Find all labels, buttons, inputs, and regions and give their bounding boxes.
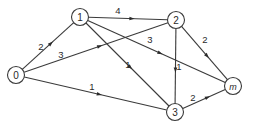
edge-weight-label: 2 bbox=[202, 34, 207, 45]
edge-line bbox=[88, 17, 167, 19]
arrow-icon bbox=[129, 17, 134, 21]
arrow-icon bbox=[97, 45, 103, 48]
arrow-icon bbox=[205, 96, 210, 100]
node-0: 0 bbox=[8, 67, 25, 84]
edge-weight-label: 2 bbox=[38, 41, 43, 52]
node-label: 2 bbox=[173, 15, 179, 26]
node-label: 3 bbox=[172, 107, 178, 118]
edge-line bbox=[183, 89, 225, 108]
edge-line bbox=[88, 20, 226, 82]
edge-weight-label: 2 bbox=[190, 92, 195, 103]
edge-2-to-3: 1 bbox=[174, 28, 182, 103]
edge-weight-label: 3 bbox=[58, 49, 63, 60]
node-label: m bbox=[229, 82, 237, 92]
edge-1-to-2: 4 bbox=[88, 5, 167, 21]
arrow-icon bbox=[157, 50, 162, 54]
edge-1-to-m: 3 bbox=[88, 20, 226, 82]
edge-0-to-1: 2 bbox=[22, 23, 73, 70]
node-2: 2 bbox=[168, 12, 185, 29]
node-1: 1 bbox=[72, 9, 89, 26]
node-label: 0 bbox=[13, 70, 19, 81]
edge-weight-label: 1 bbox=[125, 59, 130, 70]
node-label: 1 bbox=[77, 12, 83, 23]
edge-3-to-m: 2 bbox=[183, 89, 225, 108]
network-diagram: 231413122 0123m bbox=[0, 0, 254, 127]
edges-layer: 231413122 bbox=[22, 5, 227, 111]
arrow-icon bbox=[96, 92, 101, 96]
edge-2-to-m: 2 bbox=[182, 26, 228, 79]
node-m: m bbox=[225, 78, 242, 95]
edge-weight-label: 3 bbox=[147, 34, 152, 45]
edge-line bbox=[22, 23, 73, 70]
edge-weight-label: 1 bbox=[176, 61, 181, 72]
edge-weight-label: 4 bbox=[115, 5, 120, 16]
edge-weight-label: 1 bbox=[89, 81, 94, 92]
node-3: 3 bbox=[167, 104, 184, 121]
